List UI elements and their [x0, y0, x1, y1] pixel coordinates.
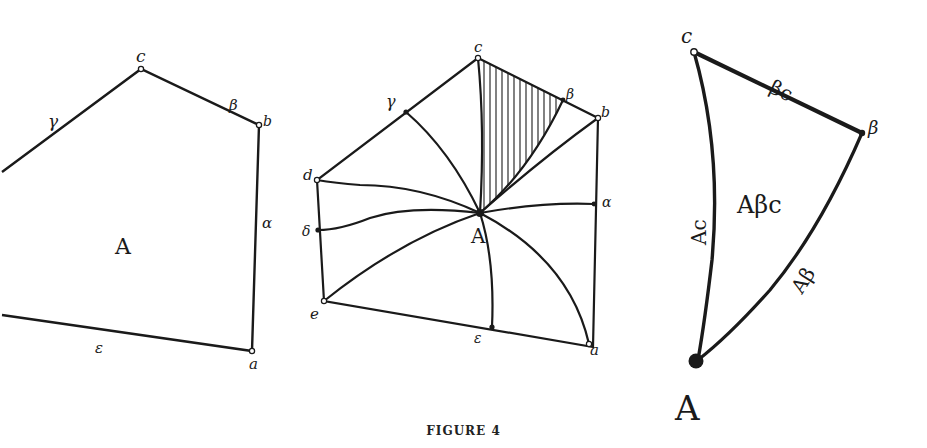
edge-gamma-label: γ — [48, 111, 59, 131]
vertex-b-marker — [256, 122, 261, 127]
left-polygon-panel — [2, 69, 259, 351]
subdivided-vertices — [314, 55, 600, 346]
vertex-c-marker — [138, 66, 143, 71]
center-A-marker — [476, 209, 484, 217]
edge-alpha-label: α — [602, 194, 612, 210]
edge-epsilon-label: ε — [474, 330, 482, 346]
vertex-A-marker — [689, 354, 704, 369]
hatched-region — [484, 50, 562, 220]
edge-epsilon-label: ε — [95, 339, 103, 357]
spoke-to-alpha — [480, 204, 594, 213]
edge-alpha-label: α — [262, 214, 272, 232]
edge-beta-label: β — [228, 96, 238, 114]
figure-caption: FIGURE 4 — [0, 424, 927, 438]
vertex-c-marker — [475, 55, 480, 60]
edge-delta-label: δ — [302, 223, 310, 239]
spoke-to-b — [480, 118, 598, 213]
vertex-A-label: A — [674, 388, 700, 428]
left-polygon-vertices — [138, 66, 261, 353]
vertex-a-label: a — [590, 341, 599, 359]
vertex-a-marker — [249, 348, 254, 353]
spoke-to-c — [478, 58, 482, 213]
region-A-label: A — [114, 234, 132, 259]
vertex-c-label: c — [681, 24, 692, 48]
edge-gamma-label: γ — [386, 92, 396, 111]
subdivided-edge-points — [315, 98, 596, 330]
region-A-beta-c-label: Aβc — [736, 191, 782, 219]
figure-canvas: c b a γ β α ε A — [0, 0, 927, 448]
vertex-c-marker — [691, 49, 697, 55]
vertex-a-label: a — [249, 355, 258, 373]
vertex-beta-marker — [859, 130, 865, 136]
vertex-e-label: e — [310, 305, 319, 323]
epsilon-point — [489, 324, 494, 329]
gamma-point — [403, 109, 408, 114]
spoke-to-a — [480, 213, 589, 344]
left-polygon-outline — [2, 69, 259, 351]
edge-A-beta-label: Aβ — [785, 263, 820, 299]
vertex-b-label: b — [263, 113, 272, 129]
edge-A-beta — [698, 133, 862, 360]
spoke-to-delta — [318, 210, 480, 230]
vertex-d-marker — [314, 177, 319, 182]
vertex-c-label: c — [474, 38, 483, 56]
vertex-b-label: b — [601, 104, 610, 120]
vertex-b-marker — [595, 115, 600, 120]
vertex-c-label: c — [136, 46, 146, 66]
spoke-to-d — [317, 180, 480, 213]
vertex-beta-label: β — [867, 117, 878, 138]
vertex-d-label: d — [303, 166, 313, 184]
beta-point — [561, 98, 566, 103]
edge-A-c-label: Ac — [687, 219, 711, 246]
delta-point — [315, 227, 320, 232]
center-A-label: A — [470, 224, 486, 248]
edge-beta-label: β — [565, 86, 574, 102]
edge-A-c — [694, 52, 715, 360]
vertex-e-marker — [321, 298, 326, 303]
alpha-point — [592, 202, 597, 207]
